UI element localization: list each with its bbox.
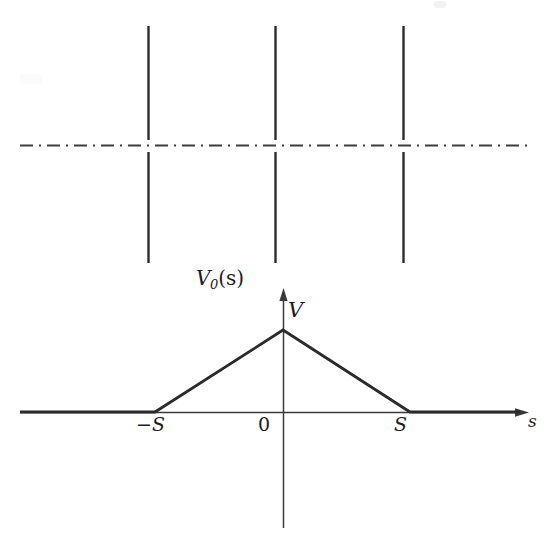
- xtick-label-zero: 0: [258, 415, 270, 434]
- peak-value-label: V: [288, 300, 303, 321]
- top-diagram-group: [20, 26, 532, 263]
- xtick-label-positive-s: S: [394, 415, 407, 434]
- potential-curve-v0: [20, 330, 520, 412]
- potential-curve-group: [20, 330, 520, 412]
- plot-axes-group: [20, 288, 529, 528]
- minus-sign: −: [136, 413, 152, 435]
- y-axis-arrowhead: [279, 288, 287, 301]
- figure-container: V0(s) V −S 0 S s: [0, 0, 551, 538]
- y-axis-label: V0(s): [196, 268, 244, 291]
- figure-svg: [0, 0, 551, 538]
- xtick-label-negative-s: −S: [136, 415, 165, 434]
- y-axis-label-argument: (s): [218, 266, 244, 290]
- y-axis-label-subscript: 0: [210, 277, 218, 292]
- y-axis-label-base: V: [196, 266, 210, 290]
- x-axis-label: s: [528, 413, 537, 430]
- xtick-negative-s-symbol: S: [152, 413, 165, 435]
